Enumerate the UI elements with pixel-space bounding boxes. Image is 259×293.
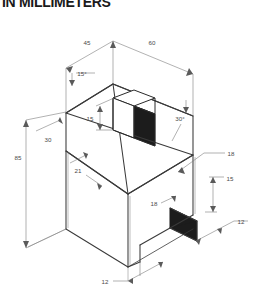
chimney-right-face bbox=[134, 106, 155, 146]
dim-45: 45 bbox=[84, 39, 91, 46]
drawing-sheet: IN MILLIMETERS bbox=[0, 0, 259, 293]
arrow-12r-b bbox=[217, 228, 222, 234]
arrow-18-inner bbox=[171, 196, 176, 202]
dim-30-deg: 30° bbox=[175, 115, 185, 122]
dim-12-bottom: 12 bbox=[102, 278, 109, 285]
isometric-technical-drawing: 45 60 15° 30° 15 30 85 21 18 15 18 12 12 bbox=[0, 0, 259, 293]
dim-15: 15 bbox=[87, 115, 94, 122]
arrow-30-lead bbox=[58, 117, 63, 124]
dim-18-inner: 18 bbox=[151, 200, 158, 207]
notch-step-left bbox=[140, 228, 170, 245]
dimension-arrowheads bbox=[23, 41, 222, 284]
ext-85-bot bbox=[26, 229, 66, 248]
arrow-15r-top bbox=[210, 177, 216, 183]
arrow-12b-b bbox=[158, 262, 163, 268]
arrow-15r-bot bbox=[210, 206, 216, 212]
arrow-18r bbox=[178, 167, 185, 174]
arrow-45-left bbox=[66, 66, 73, 73]
wall-left-bottom bbox=[66, 229, 128, 267]
dim-60: 60 bbox=[149, 39, 156, 46]
leader-30 bbox=[36, 121, 58, 131]
arrow-60-right bbox=[186, 68, 193, 76]
dim-15-right: 15 bbox=[227, 175, 234, 182]
leader-21-tail bbox=[86, 175, 102, 186]
dimension-lines bbox=[26, 41, 248, 281]
dim-12-right: 12 bbox=[238, 218, 245, 225]
arrow-15deg bbox=[69, 80, 75, 86]
arrow-85-top bbox=[23, 120, 29, 127]
dim-15-deg: 15° bbox=[77, 70, 87, 77]
dimline-12-right bbox=[196, 221, 234, 241]
arrow-chim-bot bbox=[97, 124, 103, 130]
leader-30deg-tail bbox=[172, 124, 181, 141]
roof-hip-right bbox=[128, 155, 193, 194]
dim-30: 30 bbox=[45, 136, 52, 143]
arrow-chim-top bbox=[97, 106, 103, 112]
arrow-12b-a bbox=[128, 278, 133, 284]
dim-18-right: 18 bbox=[228, 150, 235, 157]
roof-ridge-left bbox=[66, 84, 113, 113]
base-rear-left bbox=[128, 229, 193, 267]
arrow-21-a bbox=[83, 152, 88, 159]
shaded-faces bbox=[134, 106, 197, 241]
ext-chimney-top bbox=[96, 98, 114, 106]
dim-85: 85 bbox=[15, 154, 22, 161]
dim-21: 21 bbox=[75, 167, 82, 174]
